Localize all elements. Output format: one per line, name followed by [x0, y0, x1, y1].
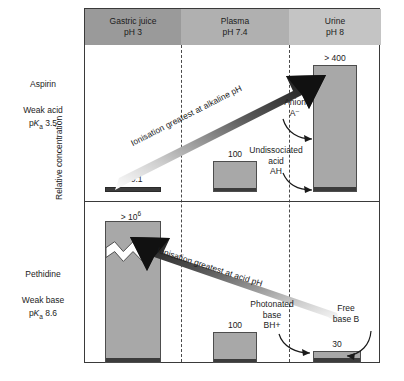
callout-arrow-free-base	[341, 329, 373, 359]
column-header-gastric: Gastric juice pH 3	[85, 9, 181, 45]
callout-anion-line2: A⁻	[290, 108, 301, 118]
bar-label-pethidine-gastric: > 106	[99, 209, 163, 222]
column-header-gastric-name: Gastric juice	[110, 16, 157, 27]
callout-anion-line1: Anion	[284, 97, 306, 107]
callout-base-line2: base	[263, 310, 281, 320]
bar-base-pethidine-gastric	[106, 358, 160, 362]
bar-base-pethidine-plasma	[214, 359, 256, 362]
column-header-urine-ph: pH 8	[326, 27, 344, 38]
bottom-pka-subscript: a	[39, 313, 43, 320]
column-header-plasma-ph: pH 7.4	[222, 27, 247, 38]
callout-base-line1: Photonated	[250, 299, 293, 309]
column-header-urine: Urine pH 8	[289, 9, 381, 45]
column-header-plasma-name: Plasma	[221, 16, 249, 27]
column-header-plasma: Plasma pH 7.4	[181, 9, 289, 45]
callout-base-line3: BH+	[264, 320, 281, 330]
callout-protonated-base: Photonated base BH+	[233, 299, 311, 331]
top-pka-subscript: a	[39, 123, 43, 130]
callout-free-base-line2: base B	[333, 314, 359, 324]
callout-anion: Anion A⁻	[267, 97, 323, 118]
panel-divider	[85, 201, 379, 202]
bar-label-pethidine-gastric-exponent: 6	[138, 210, 142, 217]
bar-label-pethidine-gastric-main: > 10	[121, 212, 138, 222]
callout-arrow-acid	[281, 171, 321, 195]
top-drug-type: Weak acid	[6, 104, 80, 117]
callout-free-base: Free base B	[317, 303, 375, 324]
bottom-drug-type: Weak base	[6, 294, 80, 307]
callout-arrow-anion	[281, 117, 321, 145]
top-drug-name: Aspirin	[8, 78, 78, 91]
callout-acid-line2: acid	[268, 156, 284, 166]
column-header-urine-name: Urine	[325, 16, 345, 27]
callout-acid-line1: Undissociated	[249, 145, 302, 155]
y-axis-label: Relative concentration	[54, 116, 64, 200]
callout-free-base-line1: Free	[337, 303, 354, 313]
bottom-drug-name: Pethidine	[8, 268, 78, 281]
column-header-band: Gastric juice pH 3 Plasma pH 7.4 Urine p…	[85, 9, 379, 45]
bottom-drug-pka: pKa 8.6	[6, 307, 80, 323]
callout-arrow-protonated-base	[277, 332, 317, 358]
ph-partition-figure: Aspirin Weak acid pKa 3.5 Pethidine Weak…	[0, 0, 404, 381]
top-drug-pka: pKa 3.5	[6, 117, 80, 133]
bar-pethidine-plasma	[213, 332, 257, 363]
plot-frame: Gastric juice pH 3 Plasma pH 7.4 Urine p…	[84, 8, 380, 363]
column-header-gastric-ph: pH 3	[124, 27, 142, 38]
bottom-pka-value: 8.6	[45, 308, 57, 318]
